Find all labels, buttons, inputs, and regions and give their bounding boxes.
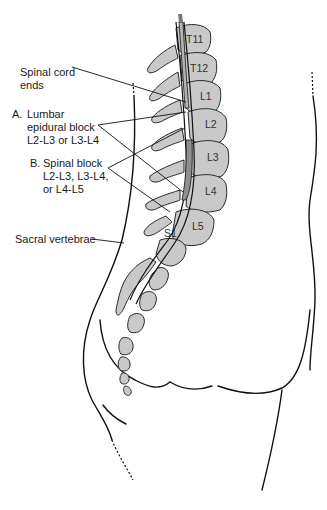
label-s1: S1 bbox=[164, 227, 177, 239]
lumbar-epidural-line3: L2-L3 or L3-L4 bbox=[27, 134, 99, 146]
leader-epidural-1 bbox=[98, 112, 186, 125]
leader-spinal-1 bbox=[108, 128, 185, 168]
lumbar-epidural-line1: Lumbar bbox=[27, 108, 65, 120]
lumbar-epidural-marker: A. bbox=[12, 108, 22, 120]
leg-outline-dashed bbox=[112, 440, 133, 480]
leader-sacral bbox=[92, 239, 124, 243]
front-outline-dashed-top bbox=[312, 72, 313, 96]
spinal-block-marker: B. bbox=[30, 157, 40, 169]
label-l2: L2 bbox=[205, 118, 217, 130]
spinal-cord-ends-line2: ends bbox=[20, 79, 44, 91]
spinal-block-line1: Spinal block bbox=[43, 157, 103, 169]
diagram-svg: T11 T12 L1 L2 L3 L4 L5 S1 Spinal cord en… bbox=[0, 0, 327, 510]
coccyx-2 bbox=[118, 357, 130, 371]
back-outline-dashed-top bbox=[133, 83, 134, 96]
sacral-vertebrae-label: Sacral vertebrae bbox=[15, 233, 96, 245]
label-l4: L4 bbox=[205, 185, 217, 197]
spinal-block-line2: L2-L3, L3-L4, bbox=[43, 170, 108, 182]
coccyx-3 bbox=[120, 373, 129, 384]
label-t12: T12 bbox=[190, 62, 208, 74]
spinous-processes bbox=[144, 45, 184, 236]
label-l1: L1 bbox=[200, 90, 212, 102]
buttock-crease-1 bbox=[170, 382, 212, 389]
spinous-process-l1 bbox=[152, 100, 182, 123]
spinal-cord-ends-line1: Spinal cord bbox=[20, 66, 75, 78]
front-outline bbox=[309, 96, 316, 370]
coccyx-1 bbox=[119, 337, 133, 354]
coccyx-4 bbox=[124, 386, 132, 395]
label-t11: T11 bbox=[186, 33, 203, 45]
sacrum-coccyx bbox=[116, 258, 168, 395]
annotations: Spinal cord ends A. Lumbar epidural bloc… bbox=[12, 66, 108, 245]
spine-diagram: T11 T12 L1 L2 L3 L4 L5 S1 Spinal cord en… bbox=[0, 0, 327, 510]
spinous-process-t12 bbox=[150, 72, 180, 101]
sacral-vertebra-3 bbox=[140, 291, 157, 310]
sacral-vertebra-4 bbox=[128, 313, 145, 332]
label-l5: L5 bbox=[192, 220, 204, 232]
buttock-lower bbox=[218, 310, 310, 393]
label-l3: L3 bbox=[207, 151, 219, 163]
leader-lines bbox=[72, 67, 186, 243]
spinal-block-line3: or L4-L5 bbox=[43, 183, 84, 195]
spinous-process-t11 bbox=[148, 45, 178, 73]
sacral-vertebra-2 bbox=[149, 267, 168, 290]
lumbar-epidural-line2: epidural block bbox=[27, 121, 95, 133]
cord-top bbox=[178, 14, 183, 22]
vertebra-s1 bbox=[156, 238, 186, 266]
thigh-front bbox=[262, 390, 282, 490]
hip-crease bbox=[103, 405, 126, 424]
